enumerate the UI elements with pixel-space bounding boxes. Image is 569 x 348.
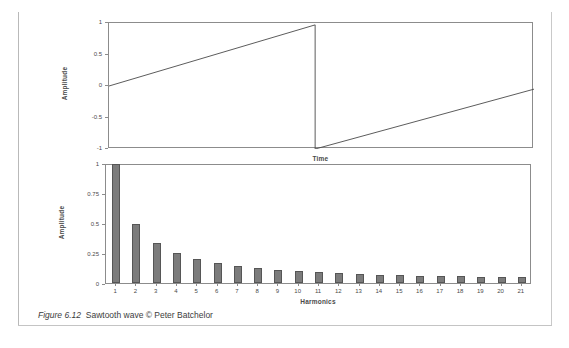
harmonics-x-tick-label: 4 (166, 288, 186, 294)
harmonics-y-tick-label: 0.75 (71, 191, 99, 197)
harmonic-bar (214, 263, 222, 283)
harmonic-bar (193, 259, 201, 283)
harmonics-y-tick-label: 0 (71, 281, 99, 287)
harmonics-x-tick-mark (501, 284, 502, 286)
harmonic-bar (274, 270, 282, 283)
harmonics-x-tick-mark (237, 284, 238, 286)
harmonic-bar (477, 277, 485, 283)
harmonics-x-tick-label: 13 (349, 288, 369, 294)
harmonics-x-tick-label: 2 (125, 288, 145, 294)
figure-number: Figure 6.12 (38, 310, 81, 320)
waveform-y-tick-label: 1 (74, 19, 102, 25)
harmonics-x-tick-mark (480, 284, 481, 286)
harmonics-x-tick-mark (521, 284, 522, 286)
waveform-y-tick-mark (105, 148, 108, 149)
harmonics-x-tick-label: 18 (450, 288, 470, 294)
harmonics-x-tick-mark (135, 284, 136, 286)
harmonics-x-tick-mark (115, 284, 116, 286)
harmonics-x-tick-label: 17 (430, 288, 450, 294)
waveform-y-tick-label: -0.5 (74, 114, 102, 120)
harmonics-x-tick-label: 3 (146, 288, 166, 294)
harmonics-x-tick-mark (379, 284, 380, 286)
harmonics-x-tick-mark (298, 284, 299, 286)
waveform-y-tick-label: 0 (74, 82, 102, 88)
harmonics-x-tick-mark (338, 284, 339, 286)
harmonic-bar (356, 274, 364, 283)
harmonics-x-tick-label: 19 (470, 288, 490, 294)
harmonic-bar (173, 253, 181, 283)
harmonics-x-tick-mark (359, 284, 360, 286)
waveform-y-tick-label: -1 (74, 145, 102, 151)
waveform-x-axis-label: Time (108, 155, 533, 162)
harmonics-x-tick-mark (196, 284, 197, 286)
harmonics-x-tick-label: 20 (491, 288, 511, 294)
harmonics-x-tick-label: 7 (227, 288, 247, 294)
harmonic-bar (315, 272, 323, 283)
page-rule-bottom (18, 325, 552, 326)
harmonic-bar (376, 275, 384, 283)
figure-caption: Figure 6.12 Sawtooth wave © Peter Batche… (38, 310, 213, 320)
harmonics-x-tick-label: 15 (389, 288, 409, 294)
harmonics-y-tick-label: 1 (71, 161, 99, 167)
page-rule-right (551, 12, 552, 326)
harmonic-bar (295, 271, 303, 283)
harmonics-x-tick-label: 14 (369, 288, 389, 294)
harmonics-x-tick-label: 5 (186, 288, 206, 294)
harmonics-x-tick-label: 11 (308, 288, 328, 294)
harmonic-bar (498, 277, 506, 283)
harmonics-x-tick-mark (176, 284, 177, 286)
harmonics-y-tick-mark (102, 284, 105, 285)
harmonics-x-tick-label: 10 (288, 288, 308, 294)
harmonics-x-axis-label: Harmonics (105, 298, 531, 305)
harmonic-bar (396, 275, 404, 283)
harmonic-bar (437, 276, 445, 283)
page-rule-left (18, 12, 19, 326)
harmonic-bar (112, 164, 120, 283)
harmonic-bar (457, 276, 465, 283)
harmonics-x-tick-mark (277, 284, 278, 286)
harmonics-x-tick-mark (318, 284, 319, 286)
harmonics-x-tick-mark (156, 284, 157, 286)
harmonics-x-tick-label: 16 (409, 288, 429, 294)
waveform-y-tick-label: 0.5 (74, 51, 102, 57)
harmonics-y-tick-label: 0.25 (71, 251, 99, 257)
harmonics-y-axis-label: Amplitude (58, 188, 65, 258)
harmonics-x-tick-mark (217, 284, 218, 286)
figure-page: Amplitude 10.50-0.5-1 Time Amplitude 10.… (0, 0, 569, 348)
harmonic-bar (518, 277, 526, 283)
waveform-y-axis-label: Amplitude (61, 49, 68, 119)
harmonics-x-tick-label: 6 (207, 288, 227, 294)
harmonics-x-tick-label: 8 (247, 288, 267, 294)
sawtooth-waveform-path (109, 23, 534, 149)
harmonic-bar (132, 224, 140, 284)
harmonics-x-tick-label: 1 (105, 288, 125, 294)
harmonics-x-tick-mark (257, 284, 258, 286)
harmonic-bar (416, 276, 424, 283)
figure-caption-text: Sawtooth wave © Peter Batchelor (86, 310, 213, 320)
harmonic-bar (153, 243, 161, 283)
harmonics-bar-group (106, 165, 530, 283)
harmonics-x-tick-mark (399, 284, 400, 286)
harmonic-bar (234, 266, 242, 283)
waveform-plot-area (108, 22, 533, 148)
harmonics-x-tick-mark (460, 284, 461, 286)
harmonics-y-tick-label: 0.5 (71, 221, 99, 227)
harmonics-plot-area (105, 164, 531, 284)
harmonic-bar (335, 273, 343, 283)
harmonics-x-tick-label: 21 (511, 288, 531, 294)
harmonic-bar (254, 268, 262, 283)
harmonics-x-tick-mark (440, 284, 441, 286)
harmonics-x-tick-label: 12 (328, 288, 348, 294)
harmonics-x-tick-mark (419, 284, 420, 286)
harmonics-x-tick-label: 9 (267, 288, 287, 294)
